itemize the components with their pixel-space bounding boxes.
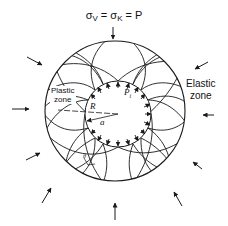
plastic-zone-line2: zone — [51, 95, 75, 104]
outer-radius-label: R — [90, 102, 96, 111]
plastic-zone-label: Plastic zone — [50, 86, 76, 104]
plastic-zone-line1: Plastic — [51, 86, 75, 95]
elastic-zone-line2: zone — [186, 90, 215, 102]
internal-pressure-label: Pi — [124, 88, 131, 99]
elastic-zone-label: Elastic zone — [186, 78, 215, 102]
inner-radius-label: a — [100, 118, 105, 127]
elastic-zone-line1: Elastic — [186, 78, 215, 90]
diagram-canvas — [0, 0, 228, 226]
slip-angle-label: θ — [83, 153, 86, 159]
internal-pressure-subscript: i — [130, 93, 132, 99]
